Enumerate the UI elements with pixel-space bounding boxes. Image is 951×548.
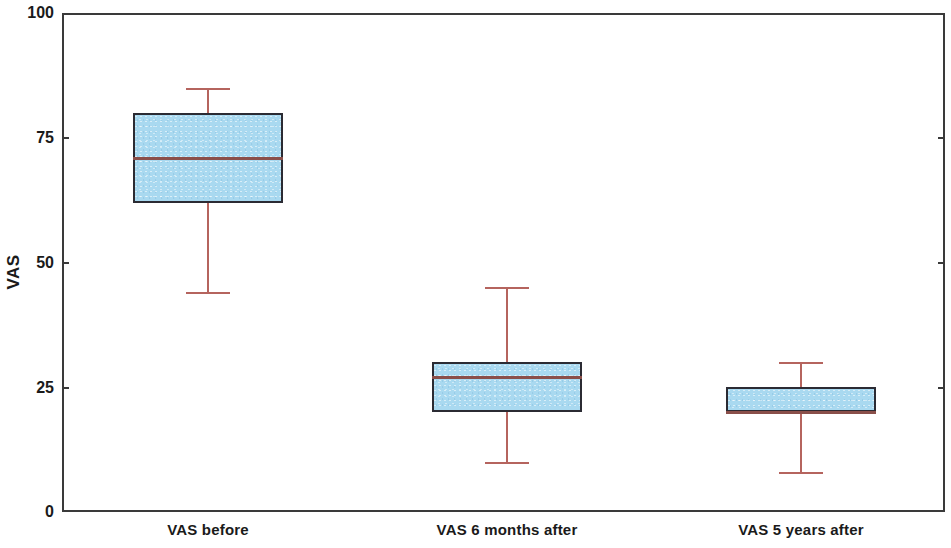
upper-whisker-stem (800, 362, 802, 387)
box-fill-texture (728, 389, 874, 410)
x-axis-label-vas-5-years-after: VAS 5 years after (738, 521, 864, 538)
x-axis-label-vas-6-months-after: VAS 6 months after (437, 521, 578, 538)
lower-whisker-cap (779, 472, 823, 474)
box-iqr (726, 387, 876, 412)
lower-whisker-stem (800, 412, 802, 472)
median-line (726, 411, 876, 414)
boxplot-3 (0, 0, 951, 548)
x-axis-label-vas-before: VAS before (167, 521, 249, 538)
boxplot-figure: VAS 100 75 50 25 0 VAS before VAS 6 mont… (0, 0, 951, 548)
upper-whisker-cap (779, 362, 823, 364)
